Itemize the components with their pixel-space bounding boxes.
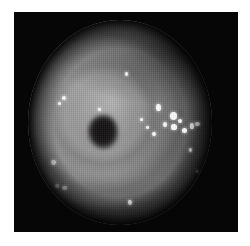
specular-highlight: [170, 112, 177, 120]
specular-highlight: [189, 148, 192, 152]
endoscopy-image-page: [0, 0, 250, 246]
specular-highlight: [146, 126, 149, 129]
specular-highlight: [178, 119, 182, 123]
specular-highlight: [98, 108, 101, 111]
specular-highlight: [171, 124, 177, 130]
specular-highlight: [196, 170, 199, 173]
mucosal-shadow-crease: [28, 20, 212, 225]
lumen-opening: [88, 115, 118, 149]
endoscope-field-of-view: [28, 20, 212, 225]
specular-highlight: [58, 102, 61, 105]
specular-highlight: [62, 96, 66, 100]
specular-highlight: [152, 132, 156, 136]
specular-highlight: [195, 122, 200, 126]
specular-highlight: [156, 104, 161, 111]
specular-highlight: [62, 186, 67, 190]
specular-highlight: [51, 160, 56, 165]
specular-highlight: [125, 72, 128, 76]
specular-highlight: [163, 122, 167, 127]
specular-highlight: [182, 128, 187, 133]
specular-highlight: [140, 118, 143, 121]
specular-highlight: [190, 123, 194, 129]
photo-black-frame: [14, 12, 238, 232]
specular-highlight: [128, 200, 132, 205]
specular-highlight: [55, 184, 59, 188]
